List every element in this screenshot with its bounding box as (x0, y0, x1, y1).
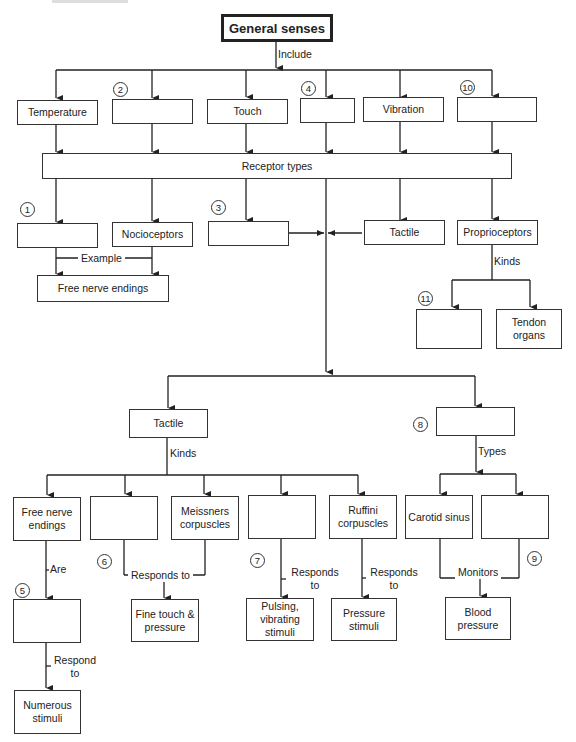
receptor-nocioceptors: Nocioceptors (112, 222, 193, 247)
receptor-tactile: Tactile (364, 220, 445, 245)
baro-type-carotid-sinus: Carotid sinus (405, 495, 473, 539)
baro-blank-8 (436, 407, 515, 436)
tactile-kind-meissners: Meissners corpuscles (171, 496, 239, 540)
responds-to-label-7: Responds to (287, 566, 343, 592)
tactile-kind-blank-7 (248, 495, 316, 539)
receptor-blank-1 (17, 223, 98, 248)
number-2: 2 (113, 82, 128, 97)
number-11: 11 (418, 291, 433, 306)
types-label: Types (478, 445, 506, 458)
blood-pressure-box: Blood pressure (445, 597, 511, 640)
pulsing-vibrating-stimuli-box: Pulsing, vibrating stimuli (246, 598, 314, 641)
numerous-stimuli-box: Numerous stimuli (14, 690, 81, 734)
number-4: 4 (301, 81, 316, 96)
number-8: 8 (413, 417, 428, 432)
free-nerve-endings-box: Free nerve endings (37, 275, 169, 302)
fine-touch-pressure-box: Fine touch & pressure (131, 599, 199, 642)
respond-to-label: Respond to (52, 654, 98, 680)
number-1: 1 (20, 202, 35, 217)
pressure-stimuli-box: Pressure stimuli (331, 598, 397, 641)
number-5: 5 (15, 583, 30, 598)
receptor-proprioceptors: Proprioceptors (457, 220, 538, 245)
sense-blank-2 (112, 99, 193, 124)
sense-blank-4 (300, 98, 355, 123)
responds-to-label-6: Responds to (128, 569, 193, 582)
number-6: 6 (97, 554, 112, 569)
baro-type-blank-9 (481, 495, 549, 539)
kinds-label-tactile: Kinds (170, 447, 196, 460)
number-7: 7 (250, 553, 265, 568)
example-label: Example (78, 252, 125, 265)
receptor-blank-3 (208, 221, 289, 246)
are-label: Are (50, 563, 66, 576)
number-10: 10 (460, 80, 475, 95)
tactile-box: Tactile (129, 409, 208, 438)
include-label: Include (278, 48, 312, 61)
sense-temperature: Temperature (17, 100, 98, 125)
tactile-kind-ruffini: Ruffini corpuscles (329, 495, 397, 539)
monitors-label: Monitors (455, 566, 501, 579)
general-senses-box: General senses (221, 14, 333, 42)
tactile-kind-free-nerve-endings: Free nerve endings (13, 497, 81, 541)
sense-touch: Touch (207, 99, 288, 124)
responds-to-label-ruffini: Responds to (366, 566, 422, 592)
blank-5-box (13, 599, 81, 643)
proprio-kind-blank-11 (416, 309, 482, 349)
tactile-kind-blank-6 (90, 496, 158, 540)
sense-vibration: Vibration (363, 97, 444, 122)
receptor-types-bar: Receptor types (42, 153, 512, 179)
number-3: 3 (211, 200, 226, 215)
number-9: 9 (527, 551, 542, 566)
kinds-label-proprio: Kinds (494, 255, 520, 268)
sense-blank-10 (457, 97, 537, 122)
proprio-kind-tendon-organs: Tendon organs (496, 309, 562, 349)
